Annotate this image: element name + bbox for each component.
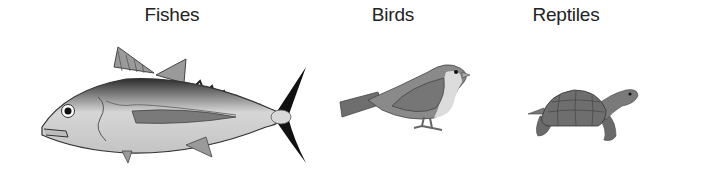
turtle-icon <box>526 86 641 158</box>
label-reptiles: Reptiles <box>532 4 599 26</box>
fish-icon <box>36 45 311 165</box>
label-birds: Birds <box>372 4 414 26</box>
label-fishes: Fishes <box>145 4 200 26</box>
bird-icon <box>338 62 473 132</box>
